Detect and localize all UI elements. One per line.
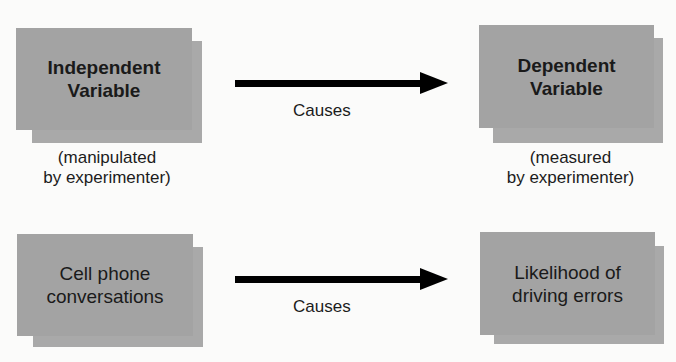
dependent-variable-caption: (measuredby experimenter) [478,148,663,188]
label-line: Dependent [517,54,615,77]
causes-arrow-icon [232,266,452,292]
independent-variable-label: IndependentVariable [16,28,192,130]
causes-arrow-icon [232,70,452,96]
label-line: driving errors [512,284,623,307]
label-line: Variable [48,79,161,102]
cell-phone-label: Cell phoneconversations [17,234,193,336]
causes-label: Causes [293,297,351,317]
dependent-variable-label: DependentVariable [479,25,654,128]
label-line: Variable [517,77,615,100]
causes-label: Causes [293,101,351,121]
label-line: Independent [48,56,161,79]
label-line: Likelihood of [512,261,623,284]
label-line: conversations [46,285,163,308]
driving-errors-label: Likelihood ofdriving errors [480,232,655,335]
independent-variable-caption: (manipulatedby experimenter) [22,148,192,188]
label-line: Cell phone [46,262,163,285]
